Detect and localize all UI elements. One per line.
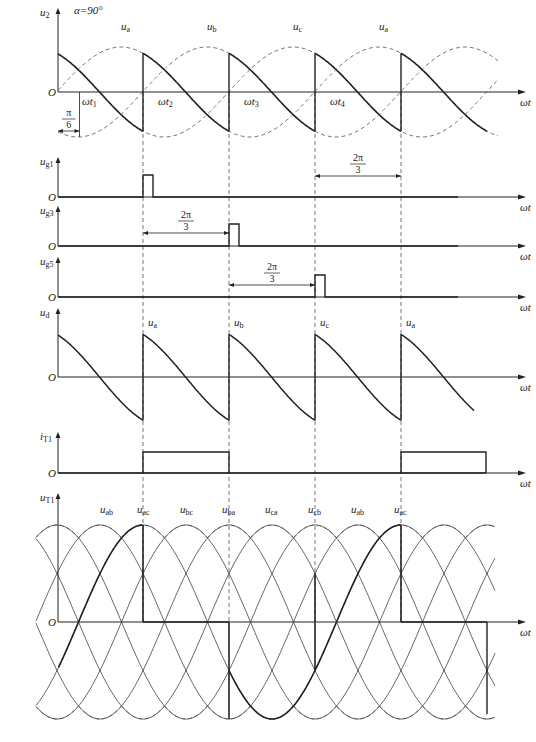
uT1-envelope-bottom-5 [165,706,208,719]
iT1-x-arrow-icon [518,471,526,476]
ug1-y-arrow-icon [56,157,61,163]
u2-time-label-3: ωt3 [244,95,259,109]
ud-output-segment-5 [401,334,474,410]
ug1-arrow-right-icon [396,174,401,178]
uT1-envelope-bottom-12 [466,706,495,719]
uT1-envelope-top-3 [79,525,122,538]
uT1-envelope-bottom-11 [423,706,466,719]
ug5-y-label: ug5 [40,255,54,269]
u2-y-label: u2 [40,6,50,20]
waveform-diagram: u2Oωtα=90°uaubucuaωt1ωt2ωt3ωt4π6ug1Oωt2π… [0,0,536,742]
ug5-interval-numerator: 2π [267,261,277,272]
uT1-envelope-bottom-4 [122,706,165,719]
ug3-arrow-right-icon [224,231,229,235]
uT1-line-label-1: uab [100,503,113,517]
u2-origin-label: O [48,86,56,98]
ug1-x-label: ωt [520,201,532,213]
pi6-denominator: 6 [66,119,71,130]
three-phase-half-wave-rectifier-waveforms: u2Oωtα=90°uaubucuaωt1ωt2ωt3ωt4π6ug1Oωt2π… [0,0,536,742]
u2-phase-label-3: uc [293,20,303,34]
ud-segment-label-1: ua [148,316,158,330]
u2-time-label-4: ωt4 [330,95,345,109]
alpha-label: α=90° [74,4,103,16]
u2-time-label-1: ωt1 [82,95,97,109]
uT1-y-label: uT1 [40,491,54,505]
iT1-conduction-block-1 [143,452,229,473]
uT1-line-label-2: uac [137,503,150,517]
iT1-origin-label: O [48,467,56,479]
ug5-gate-pulse [58,275,458,297]
uT1-trace-uac-1 [59,525,143,667]
uT1-envelope-top-12 [466,525,495,538]
uT1-line-label-6: ucb [308,503,321,517]
pi6-numerator: π [66,107,71,118]
ug3-gate-pulse [58,224,458,246]
ug3-y-arrow-icon [56,206,61,212]
ug5-y-arrow-icon [56,257,61,263]
ug3-y-label: ug3 [40,204,54,218]
ug1-interval-denominator: 3 [356,164,361,175]
ug5-origin-label: O [48,291,56,303]
uT1-envelope-top-9 [337,525,380,538]
uT1-envelope-top-7 [251,525,294,538]
ug3-interval-numerator: 2π [181,209,191,220]
uT1-trace-uab-2 [229,671,315,720]
uT1-origin-label: O [48,616,56,628]
ug1-arrow-left-icon [315,174,320,178]
ud-origin-label: O [48,371,56,383]
ud-x-label: ωt [520,381,532,393]
uT1-envelope-top-5 [165,525,208,538]
u2-y-arrow-icon [56,8,61,14]
uT1-x-arrow-icon [518,620,526,625]
ug1-x-arrow-icon [518,195,526,200]
pi6-arrow-right-icon [75,129,80,133]
iT1-y-arrow-icon [56,432,61,438]
ud-segment-label-2: ub [234,316,244,330]
ug3-interval-denominator: 3 [184,221,189,232]
ug1-y-label: ug1 [40,155,54,169]
ug3-origin-label: O [48,240,56,252]
uT1-envelope-bottom-8 [294,706,337,719]
iT1-x-label: ωt [520,477,532,489]
uT1-line-label-3: ubc [180,503,194,517]
uT1-line-label-5: uca [265,503,278,517]
ug5-x-label: ωt [520,301,532,313]
u2-phase-label-1: ua [121,20,131,34]
u2-phase-label-2: ub [207,20,217,34]
uT1-envelope-top-11 [423,525,466,538]
ug5-x-arrow-icon [518,295,526,300]
ug5-arrow-left-icon [229,283,234,287]
u2-x-arrow-icon [518,90,526,95]
uT1-trace-uac-2 [315,525,401,671]
ug1-interval-numerator: 2π [353,152,363,163]
uT1-x-label: ωt [520,626,532,638]
ug3-arrow-left-icon [143,231,148,235]
ud-y-arrow-icon [56,308,61,314]
ug1-gate-pulse [58,175,458,197]
uT1-envelope-bottom-10 [380,706,423,719]
ug3-x-label: ωt [520,250,532,262]
ud-output-segment-1 [58,335,143,420]
ug5-arrow-right-icon [310,283,315,287]
u2-time-label-2: ωt2 [158,95,173,109]
uT1-y-arrow-icon [56,493,61,499]
uT1-line-label-7: uab [351,503,364,517]
uT1-envelope-bottom-9 [337,706,380,719]
ud-y-label: ud [40,306,50,320]
ud-segment-label-4: ua [406,316,416,330]
ug5-interval-denominator: 3 [270,273,275,284]
u2-x-label: ωt [520,96,532,108]
ug1-origin-label: O [48,191,56,203]
uT1-line-label-8: uac [394,503,407,517]
ug3-x-arrow-icon [518,244,526,249]
u2-phase-label-4: ua [379,20,389,34]
ud-segment-label-3: uc [320,316,330,330]
ud-x-arrow-icon [518,375,526,380]
iT1-conduction-block-2 [401,452,486,473]
iT1-y-label: iT1 [40,430,52,444]
uT1-envelope-bottom-3 [79,706,122,719]
